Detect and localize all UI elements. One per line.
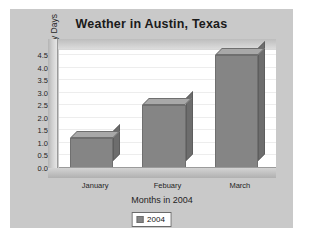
y-tick-label: 1.5 <box>26 126 48 135</box>
legend: 2004 <box>131 212 172 227</box>
bar-front-face <box>70 138 113 168</box>
y-tick-label: 3.0 <box>26 88 48 97</box>
legend-swatch-2004 <box>136 216 143 223</box>
y-tick-label: 0.5 <box>26 151 48 160</box>
bar-febuary <box>142 105 185 168</box>
bar-front-face <box>215 55 258 168</box>
x-tick-label: Febuary <box>154 181 182 190</box>
bar-side-face <box>258 41 265 161</box>
chart-figure: Weather in Austin, Texas Number of Sunny… <box>10 9 293 228</box>
axis-baseline <box>59 167 276 168</box>
y-tick-label: 0.0 <box>26 164 48 173</box>
x-tick-label: January <box>82 181 109 190</box>
plot-wall-left <box>48 39 58 178</box>
y-tick-label: 4.5 <box>26 51 48 60</box>
y-tick-label: 1.0 <box>26 138 48 147</box>
bar-january <box>70 138 113 168</box>
plot-block <box>48 39 276 178</box>
plot-area <box>59 49 276 168</box>
bar-march <box>215 55 258 168</box>
bar-top-face <box>70 131 120 138</box>
x-axis-title: Months in 2004 <box>48 195 276 205</box>
y-tick-label: 2.0 <box>26 113 48 122</box>
bar-top-face <box>215 48 265 55</box>
y-tick-label: 4.0 <box>26 63 48 72</box>
bar-top-face <box>142 98 192 105</box>
y-tick-label: 3.5 <box>26 76 48 85</box>
x-tick-label: March <box>229 181 250 190</box>
legend-label-2004: 2004 <box>147 215 165 224</box>
x-axis-tick-labels: JanuaryFebuaryMarch <box>48 181 276 193</box>
y-tick-label: 2.5 <box>26 101 48 110</box>
bar-front-face <box>142 105 185 168</box>
plot-floor <box>48 168 276 178</box>
